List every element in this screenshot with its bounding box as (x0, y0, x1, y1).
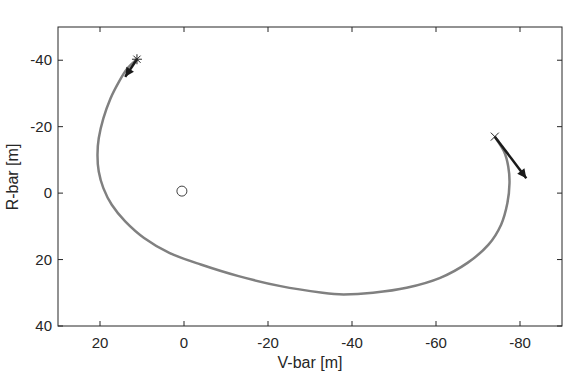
x-tick-label: 0 (180, 334, 188, 351)
y-tick-label: 0 (44, 184, 52, 201)
trajectory-chart: 200-20-40-60-80-40-2002040 V-bar [m] R-b… (0, 0, 567, 377)
y-tick-label: 20 (35, 251, 52, 268)
x-axis-label: V-bar [m] (278, 354, 343, 371)
x-tick-label: -80 (509, 334, 531, 351)
y-axis-label: R-bar [m] (4, 144, 21, 211)
x-tick-label: -20 (257, 334, 279, 351)
x-tick-label: -40 (341, 334, 363, 351)
start-asterisk-marker (132, 54, 142, 64)
x-tick-label: -60 (425, 334, 447, 351)
y-tick-label: 40 (35, 317, 52, 334)
y-tick-label: -20 (30, 118, 52, 135)
x-tick-label: 20 (92, 334, 109, 351)
y-tick-label: -40 (30, 51, 52, 68)
